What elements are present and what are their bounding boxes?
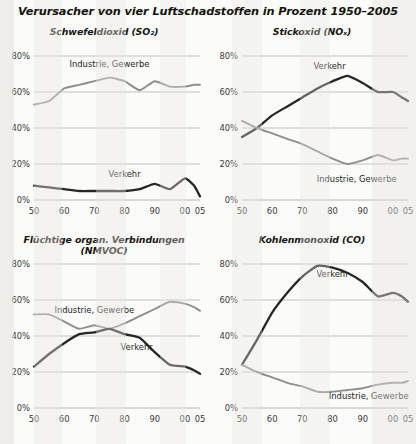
y-axis-tick-label: 20% — [11, 159, 30, 169]
y-axis-tick-label: 20% — [219, 367, 238, 377]
y-axis-tick-label: 40% — [11, 123, 30, 133]
x-axis-tick-label: 50 — [29, 414, 40, 424]
x-axis-tick-label: 05 — [403, 414, 414, 424]
x-axis-tick-label: 80 — [327, 206, 338, 216]
x-axis-tick-label: 70 — [89, 206, 100, 216]
series-label: Verkehr — [108, 169, 141, 179]
y-axis-tick-label: 60% — [11, 87, 30, 97]
x-axis-tick-label: 90 — [357, 206, 368, 216]
series-label: Industrie, Gewerbe — [317, 174, 397, 184]
chart-plot-so2: 0%20%40%60%80%50607080900005Industrie, G… — [0, 24, 208, 234]
x-axis-tick-label: 90 — [357, 414, 368, 424]
x-axis-tick-label: 60 — [267, 206, 278, 216]
series-label: Verkehr — [316, 269, 349, 279]
x-axis-tick-label: 80 — [327, 414, 338, 424]
x-axis-tick-label: 70 — [297, 414, 308, 424]
x-axis-tick-label: 50 — [29, 206, 40, 216]
x-axis-tick-label: 60 — [267, 414, 278, 424]
y-axis-tick-label: 40% — [219, 331, 238, 341]
y-axis-tick-label: 0% — [225, 195, 238, 205]
x-axis-tick-label: 05 — [195, 206, 206, 216]
data-series-line — [34, 78, 200, 105]
y-axis-tick-label: 80% — [219, 259, 238, 269]
chart-plot-nox: 0%20%40%60%80%50607080900005VerkehrIndus… — [208, 24, 416, 234]
chart-panel-co: Kohlenmonoxid (CO) 0%20%40%60%80%5060708… — [208, 232, 416, 442]
x-axis-tick-label: 70 — [297, 206, 308, 216]
x-axis-tick-label: 50 — [237, 414, 248, 424]
x-axis-tick-label: 60 — [59, 206, 70, 216]
data-series-line — [242, 121, 408, 164]
chart-plot-co: 0%20%40%60%80%50607080900005VerkehrIndus… — [208, 232, 416, 442]
y-axis-tick-label: 20% — [11, 367, 30, 377]
series-label: Industrie, Gewerbe — [329, 391, 409, 401]
y-axis-tick-label: 80% — [11, 51, 30, 61]
chart-panel-nmvoc: Flüchtige organ. Verbindungen (NMVOC) 0%… — [0, 232, 208, 442]
x-axis-tick-label: 50 — [237, 206, 248, 216]
y-axis-tick-label: 0% — [17, 195, 30, 205]
data-series-line — [34, 178, 200, 196]
data-series-line — [242, 365, 408, 392]
x-axis-tick-label: 00 — [388, 414, 399, 424]
y-axis-tick-label: 60% — [11, 295, 30, 305]
y-axis-tick-label: 80% — [11, 259, 30, 269]
data-series-line — [34, 329, 200, 374]
x-axis-tick-label: 05 — [195, 414, 206, 424]
y-axis-tick-label: 40% — [219, 123, 238, 133]
x-axis-tick-label: 00 — [180, 206, 191, 216]
x-axis-tick-label: 80 — [119, 414, 130, 424]
chart-grid: Schwefeldioxid (SO₂) 0%20%40%60%80%50607… — [0, 24, 416, 444]
x-axis-tick-label: 00 — [180, 414, 191, 424]
x-axis-tick-label: 70 — [89, 414, 100, 424]
series-label: Industrie, Gewerbe — [70, 59, 150, 69]
y-axis-tick-label: 80% — [219, 51, 238, 61]
y-axis-tick-label: 60% — [219, 87, 238, 97]
y-axis-tick-label: 20% — [219, 159, 238, 169]
x-axis-tick-label: 90 — [149, 414, 160, 424]
data-series-line — [242, 266, 408, 365]
series-label: Verkehr — [121, 342, 154, 352]
x-axis-tick-label: 00 — [388, 206, 399, 216]
chart-plot-nmvoc: 0%20%40%60%80%50607080900005Industrie, G… — [0, 232, 208, 442]
y-axis-tick-label: 60% — [219, 295, 238, 305]
chart-panel-so2: Schwefeldioxid (SO₂) 0%20%40%60%80%50607… — [0, 24, 208, 234]
y-axis-tick-label: 0% — [17, 403, 30, 413]
y-axis-tick-label: 0% — [225, 403, 238, 413]
page-title: Verursacher von vier Luftschadstoffen in… — [0, 5, 416, 18]
chart-panel-nox: Stickoxid (NOₓ) 0%20%40%60%80%5060708090… — [208, 24, 416, 234]
x-axis-tick-label: 80 — [119, 206, 130, 216]
y-axis-tick-label: 40% — [11, 331, 30, 341]
x-axis-tick-label: 60 — [59, 414, 70, 424]
series-label: Verkehr — [313, 61, 346, 71]
x-axis-tick-label: 05 — [403, 206, 414, 216]
series-label: Industrie, Gewerbe — [54, 305, 134, 315]
x-axis-tick-label: 90 — [149, 206, 160, 216]
